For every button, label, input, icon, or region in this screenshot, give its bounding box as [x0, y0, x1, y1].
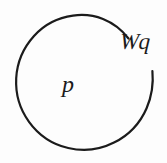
diagram-svg [0, 0, 167, 163]
boundary-label: Wq [119, 30, 150, 53]
region-label: p [62, 72, 74, 96]
figure-canvas: p Wq [0, 0, 167, 163]
